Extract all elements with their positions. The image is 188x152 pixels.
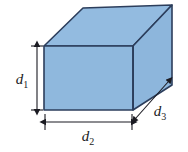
figure-container: d1 d2 d3: [0, 0, 188, 152]
box-dimensions-figure: d1 d2 d3: [0, 0, 188, 152]
depth-dimension-label-subscript: 3: [161, 111, 166, 122]
height-dimension-label-subscript: 1: [23, 79, 28, 90]
width-dimension: d2: [45, 114, 132, 147]
height-dimension-label: d1: [16, 71, 29, 90]
height-dimension: d1: [16, 46, 43, 110]
rectangular-box: [44, 5, 172, 110]
width-dimension-label: d2: [82, 128, 95, 147]
width-dimension-label-subscript: 2: [89, 136, 94, 147]
depth-dimension-label: d3: [154, 103, 167, 122]
box-front-face: [44, 46, 133, 110]
